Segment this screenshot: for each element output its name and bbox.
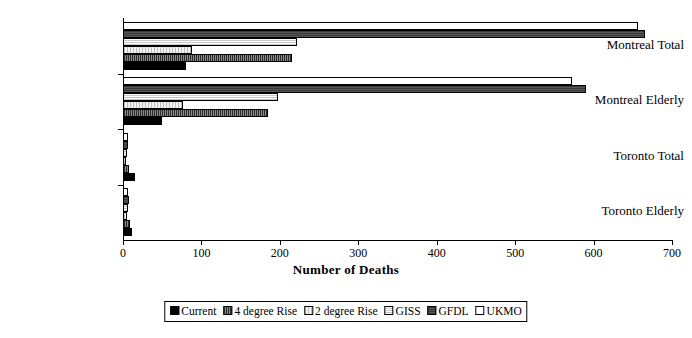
x-tick <box>201 240 202 245</box>
x-axis-title: Number of Deaths <box>0 262 692 278</box>
bar-gfdl-toronto-total <box>123 141 128 149</box>
x-tick-label: 300 <box>338 246 378 260</box>
bar-ukmo-toronto-elderly <box>123 188 128 196</box>
x-tick <box>594 240 595 245</box>
legend-item: 2 degree Rise <box>304 304 378 318</box>
x-tick-label: 200 <box>260 246 300 260</box>
legend-item: UKMO <box>476 304 522 318</box>
category-separator <box>118 74 124 75</box>
bar-current-montreal-elderly <box>123 117 162 125</box>
bar-current-toronto-elderly <box>123 228 132 236</box>
x-tick <box>437 240 438 245</box>
legend-item: Current <box>170 304 216 318</box>
bar-2-degree-rise-montreal-total <box>123 46 192 54</box>
category-label: Montreal Total <box>578 38 692 52</box>
bar-giss-toronto-elderly <box>123 204 128 212</box>
bar-2-degree-rise-toronto-elderly <box>123 212 127 220</box>
bar-4-degree-rise-montreal-total <box>123 54 292 62</box>
bar-current-toronto-total <box>123 173 135 181</box>
x-tick <box>123 240 124 245</box>
legend-swatch-icon <box>223 306 232 315</box>
x-tick-label: 400 <box>417 246 457 260</box>
bar-gfdl-toronto-elderly <box>123 196 129 204</box>
legend-label: Current <box>181 305 216 317</box>
legend-label: 4 degree Rise <box>234 305 297 317</box>
bar-ukmo-toronto-total <box>123 133 128 141</box>
legend-label: 2 degree Rise <box>315 305 378 317</box>
x-tick-label: 500 <box>495 246 535 260</box>
chart-root: 0100200300400500600700 Montreal TotalMon… <box>0 0 692 338</box>
bar-gfdl-montreal-total <box>123 30 645 38</box>
category-label: Toronto Elderly <box>578 204 692 218</box>
x-axis-line <box>123 240 672 241</box>
bar-4-degree-rise-montreal-elderly <box>123 109 268 117</box>
bar-2-degree-rise-toronto-total <box>123 157 126 165</box>
bar-gfdl-montreal-elderly <box>123 85 586 93</box>
x-tick-label: 100 <box>181 246 221 260</box>
legend-swatch-icon <box>304 306 313 315</box>
legend-item: GFDL <box>428 304 469 318</box>
legend-item: GISS <box>385 304 421 318</box>
legend-swatch-icon <box>170 306 179 315</box>
legend-label: GISS <box>396 305 421 317</box>
legend-label: GFDL <box>439 305 469 317</box>
x-tick-label: 0 <box>103 246 143 260</box>
bar-giss-montreal-total <box>123 38 297 46</box>
category-separator <box>118 185 124 186</box>
x-tick <box>672 240 673 245</box>
bar-ukmo-montreal-total <box>123 22 638 30</box>
legend-item: 4 degree Rise <box>223 304 297 318</box>
category-separator <box>118 129 124 130</box>
category-label: Montreal Elderly <box>578 93 692 107</box>
bar-4-degree-rise-toronto-elderly <box>123 220 130 228</box>
bar-current-montreal-total <box>123 62 186 70</box>
legend-swatch-icon <box>428 306 437 315</box>
bar-giss-montreal-elderly <box>123 93 278 101</box>
x-tick <box>358 240 359 245</box>
x-tick <box>515 240 516 245</box>
x-tick <box>280 240 281 245</box>
bar-giss-toronto-total <box>123 149 127 157</box>
x-tick-label: 700 <box>652 246 692 260</box>
bar-4-degree-rise-toronto-total <box>123 165 129 173</box>
x-tick-label: 600 <box>574 246 614 260</box>
chart-legend: Current4 degree Rise2 degree RiseGISSGFD… <box>164 301 527 322</box>
legend-label: UKMO <box>487 305 522 317</box>
legend-swatch-icon <box>385 306 394 315</box>
bar-ukmo-montreal-elderly <box>123 77 572 85</box>
bar-2-degree-rise-montreal-elderly <box>123 101 183 109</box>
legend-swatch-icon <box>476 306 485 315</box>
category-label: Toronto Total <box>578 149 692 163</box>
